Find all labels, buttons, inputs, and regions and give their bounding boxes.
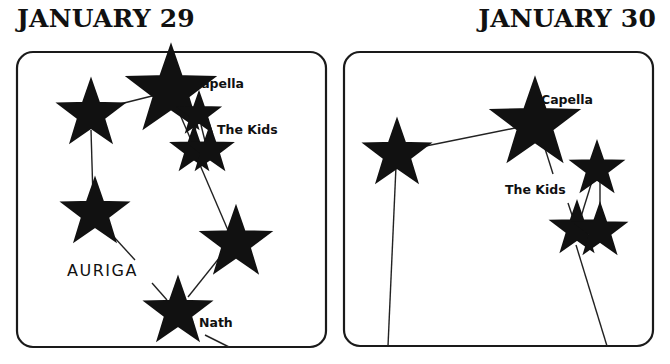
star-icon (85, 203, 104, 221)
star-icon-kid (589, 161, 604, 175)
star-icon-nath (168, 302, 187, 320)
label-capella: Capella (541, 92, 593, 107)
star-icon-kid (592, 223, 607, 237)
star-icon-capella (523, 111, 548, 135)
star-icon (226, 233, 246, 252)
star-icon (81, 104, 100, 122)
label-the-kids: The Kids (505, 182, 566, 197)
sky-chart-january-29: Capella The Kids AURIGA Nath (17, 52, 326, 347)
star-icon (387, 144, 406, 162)
label-capella: Capella (192, 76, 244, 91)
star-icon-kid (203, 143, 216, 156)
label-the-kids: The Kids (217, 122, 278, 137)
star-icon-kid (193, 108, 205, 120)
label-nath: Nath (199, 315, 233, 330)
star-icon-capella (159, 78, 184, 102)
sky-chart-january-30: Capella The Kids (344, 52, 653, 346)
label-auriga: AURIGA (67, 261, 138, 280)
